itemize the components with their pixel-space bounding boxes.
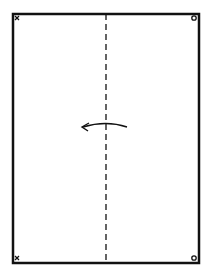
folding-diagram bbox=[0, 0, 213, 275]
